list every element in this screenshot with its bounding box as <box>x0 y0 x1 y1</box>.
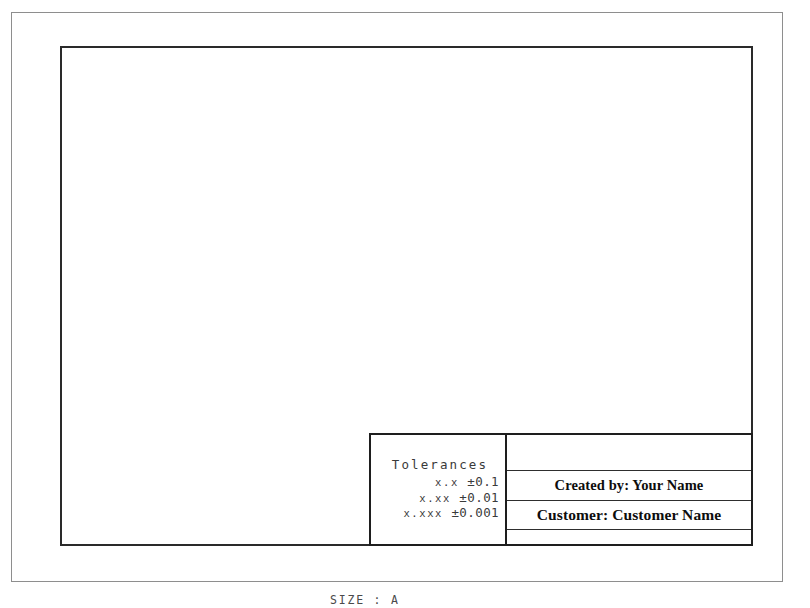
title-block-row-customer[interactable]: Customer: Customer Name <box>507 501 751 530</box>
tolerance-row-3: x.xxx ±0.001 <box>403 505 505 520</box>
tolerances-heading: Tolerances <box>388 457 488 472</box>
title-block-row-created-by[interactable]: Created by: Your Name <box>507 471 751 501</box>
tolerance-value-1: ±0.1 <box>467 474 499 489</box>
customer-label: Customer: Customer Name <box>537 506 722 524</box>
tolerance-vars-1: x.x <box>435 476 459 488</box>
created-by-label: Created by: Your Name <box>555 477 704 494</box>
tolerance-row-2: x.xx ±0.01 <box>419 490 505 505</box>
tolerances-cell: Tolerances x.x ±0.1 x.xx ±0.01 x.xxx ±0.… <box>371 435 507 544</box>
title-block-row-empty-top[interactable] <box>507 435 751 471</box>
tolerance-vars-2: x.xx <box>419 492 451 504</box>
tolerance-value-3: ±0.001 <box>451 505 499 520</box>
sheet-size-label: SIZE : A <box>330 593 400 607</box>
tolerance-row-1: x.x ±0.1 <box>435 474 505 489</box>
drawing-sheet: Tolerances x.x ±0.1 x.xx ±0.01 x.xxx ±0.… <box>0 0 810 608</box>
tolerance-value-2: ±0.01 <box>459 490 499 505</box>
title-block[interactable]: Tolerances x.x ±0.1 x.xx ±0.01 x.xxx ±0.… <box>369 433 753 546</box>
title-block-fields: Created by: Your Name Customer: Customer… <box>507 435 751 544</box>
title-block-row-empty-bottom[interactable] <box>507 530 751 544</box>
tolerance-vars-3: x.xxx <box>403 507 443 519</box>
